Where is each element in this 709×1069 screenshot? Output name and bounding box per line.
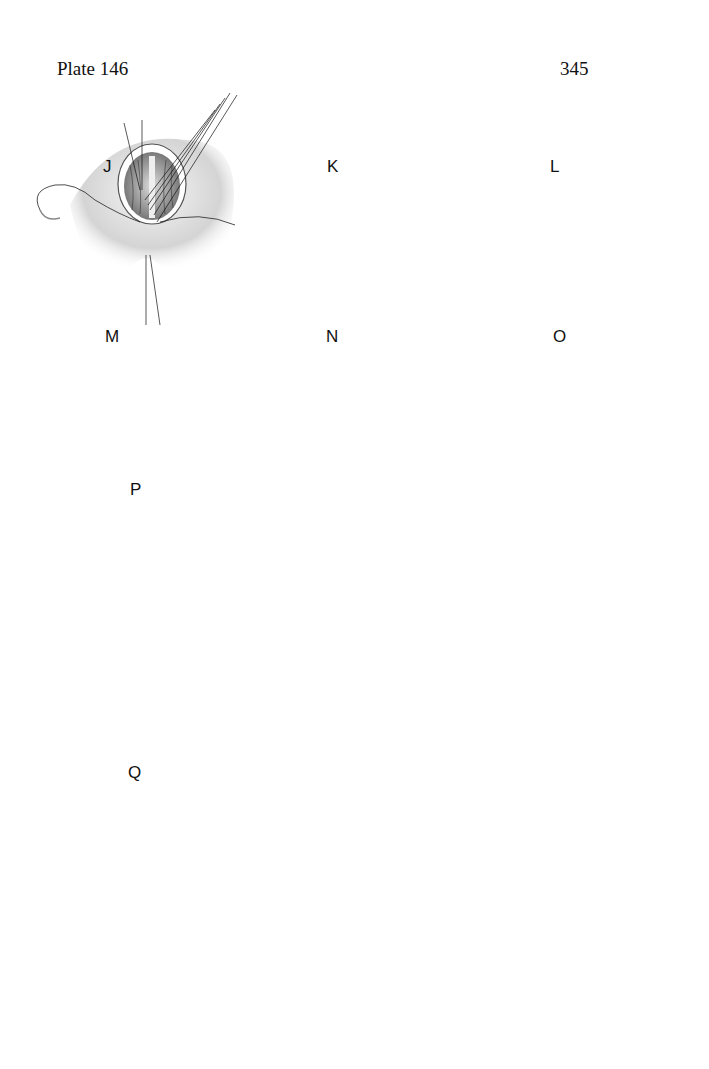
figure-label-l: L (550, 157, 559, 177)
figure-label-p: P (130, 480, 141, 500)
figure-label-o: O (553, 327, 566, 347)
figure-label-q: Q (128, 763, 141, 783)
figure-label-k: K (327, 157, 338, 177)
figure-label-n: N (326, 327, 338, 347)
figure-label-m: M (105, 327, 119, 347)
figure-label-j: J (103, 157, 112, 177)
figure-j (37, 93, 237, 325)
